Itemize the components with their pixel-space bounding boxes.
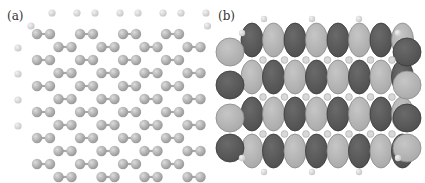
node-atom [367,57,374,64]
carbon-atom [161,133,171,143]
orbital-lobe-negative [327,97,349,131]
carbon-atom [195,68,205,78]
hydrogen-atom [356,169,362,175]
orbital-lobe-positive [327,134,349,168]
hydrogen-atom [134,9,141,16]
carbon-atom [53,146,63,156]
carbon-atom [45,81,55,91]
carbon-atom [152,42,162,52]
carbon-atom [174,133,184,143]
carbon-atom [161,29,171,39]
carbon-atom [109,120,119,130]
node-atom [367,94,374,101]
hydrogen-atom [239,155,245,161]
carbon-atom [161,107,171,117]
carbon-atom [139,68,149,78]
orbital-lobe-negative [216,71,244,99]
carbon-atom [152,94,162,104]
orbital-lobe-negative [393,104,421,132]
carbon-atom [53,120,63,130]
carbon-atom [131,55,141,65]
orbital-lobe-positive [263,23,285,57]
orbital-lobe-positive [370,134,392,168]
carbon-atom [174,55,184,65]
carbon-atom [139,94,149,104]
hydrogen-atom [204,22,211,29]
carbon-atom [88,29,98,39]
carbon-atom [32,159,42,169]
carbon-atom [32,81,42,91]
carbon-atom [45,159,55,169]
carbon-atom [131,29,141,39]
carbon-atom [139,120,149,130]
node-atom [281,131,288,138]
orbital-lobe-negative [327,23,349,57]
hydrogen-atom [309,16,315,22]
carbon-atom [161,159,171,169]
carbon-atom [118,107,128,117]
carbon-atom [118,55,128,65]
carbon-atom [195,120,205,130]
carbon-atom [109,42,119,52]
hydrogen-atom [177,9,184,16]
carbon-atom [109,68,119,78]
hydrogen-atom [239,30,245,36]
node-atom [303,57,310,64]
carbon-atom [96,68,106,78]
hydrogen-atom [395,30,401,36]
hydrogen-atom [261,169,267,175]
carbon-atom [66,42,76,52]
node-atom [346,57,353,64]
carbon-atom [118,159,128,169]
hydrogen-atom [14,122,21,129]
carbon-atom [66,146,76,156]
orbital-lobe-negative [284,97,306,131]
carbon-atom [182,68,192,78]
carbon-atom [88,55,98,65]
node-atom [260,94,267,101]
carbon-atom [182,94,192,104]
hydrogen-atom [48,9,55,16]
carbon-atom [152,68,162,78]
carbon-atom [195,42,205,52]
node-atom [303,94,310,101]
hydrogen-atom [395,155,401,161]
orbital-lobe-negative [284,23,306,57]
hydrogen-atom [309,169,315,175]
carbon-atom [32,133,42,143]
carbon-atom [182,146,192,156]
orbital-isosurface-diagram [212,0,425,183]
carbon-atom [96,146,106,156]
node-atom [389,57,396,64]
carbon-atom [88,107,98,117]
carbon-atom [96,120,106,130]
carbon-atom [75,81,85,91]
carbon-atom [131,133,141,143]
carbon-atom [195,146,205,156]
orbital-lobe-negative [370,23,392,57]
carbon-atom [152,172,162,182]
carbon-atom [53,172,63,182]
carbon-atom [161,81,171,91]
carbon-atom [53,68,63,78]
carbon-atom [45,29,55,39]
carbon-atom [182,42,192,52]
carbon-atom [109,94,119,104]
orbital-lobe-positive [349,23,371,57]
orbital-lobe-positive [327,60,349,94]
orbital-lobe-negative [241,97,263,131]
orbital-lobe-negative [306,134,328,168]
node-atom [346,94,353,101]
carbon-atom [45,133,55,143]
orbital-lobe-positive [241,60,263,94]
node-atom [389,94,396,101]
graphene-structure-diagram [0,0,212,183]
carbon-atom [118,133,128,143]
carbon-atom [195,94,205,104]
orbital-lobe-positive [216,104,244,132]
orbital-lobe-positive [349,97,371,131]
node-atom [303,131,310,138]
hydrogen-atom [261,16,267,22]
carbon-atom [88,159,98,169]
carbon-atom [96,42,106,52]
